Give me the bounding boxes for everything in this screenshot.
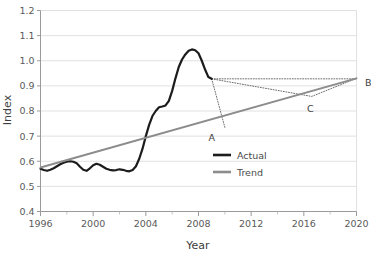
chart-container: 0.40.50.60.70.80.91.01.11.2 199620002004… [0, 0, 371, 257]
x-tick-label-2000: 2000 [81, 218, 105, 229]
legend-label-trend[interactable]: Trend [236, 167, 263, 178]
y-tick-label-0.4: 0.4 [19, 206, 34, 217]
y-tick-label-0.8: 0.8 [19, 105, 34, 116]
x-tick-label-2016: 2016 [292, 218, 316, 229]
y-tick-label-0.5: 0.5 [19, 181, 34, 192]
y-tick-label-1.2: 1.2 [19, 5, 34, 16]
y-tick-label-0.9: 0.9 [19, 80, 34, 91]
legend-label-actual[interactable]: Actual [237, 150, 267, 161]
x-tick-label-2004: 2004 [134, 218, 158, 229]
annotation-label-B: B [365, 77, 371, 88]
y-tick-label-1: 1.0 [19, 55, 34, 66]
x-tick-label-2020: 2020 [344, 218, 368, 229]
index-vs-year-line-chart: 0.40.50.60.70.80.91.01.11.2 199620002004… [0, 0, 371, 257]
annotation-label-C: C [307, 103, 314, 114]
y-tick-label-0.6: 0.6 [19, 156, 34, 167]
y-tick-label-1.1: 1.1 [19, 30, 34, 41]
x-tick-label-2008: 2008 [186, 218, 210, 229]
annotation-label-A: A [208, 132, 215, 143]
x-tick-label-1996: 1996 [28, 218, 52, 229]
y-axis-tick-labels: 0.40.50.60.70.80.91.01.11.2 [19, 5, 34, 217]
x-axis-title: Year [185, 239, 210, 252]
x-tick-label-2012: 2012 [239, 218, 263, 229]
y-tick-label-0.7: 0.7 [19, 131, 34, 142]
y-axis-title: Index [1, 94, 14, 125]
